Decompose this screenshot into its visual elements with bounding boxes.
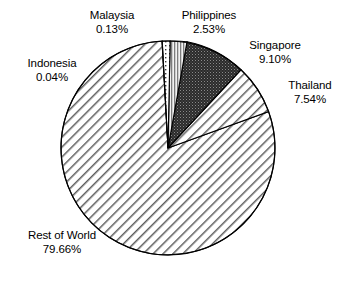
slice-label-singapore: Singapore 9.10% [232, 39, 318, 66]
slice-label-thailand: Thailand 7.54% [272, 79, 348, 106]
slice-label-rest-of-world: Rest of World 79.66% [6, 229, 118, 256]
slice-label-indonesia: Indonesia 0.04% [10, 57, 94, 84]
slice-label-thailand-value: 7.54% [272, 93, 348, 107]
slice-label-thailand-name: Thailand [272, 79, 348, 93]
slice-label-philippines: Philippines 2.53% [164, 9, 254, 36]
slice-label-philippines-name: Philippines [164, 9, 254, 23]
slice-label-singapore-value: 9.10% [232, 53, 318, 67]
pie-chart-figure: Malaysia 0.13% Philippines 2.53% Singapo… [0, 0, 352, 285]
slice-label-malaysia-value: 0.13% [74, 23, 150, 37]
slice-label-rest-of-world-name: Rest of World [6, 229, 118, 243]
slice-label-malaysia-name: Malaysia [74, 9, 150, 23]
slice-label-malaysia: Malaysia 0.13% [74, 9, 150, 36]
slice-label-indonesia-value: 0.04% [10, 71, 94, 85]
slice-label-indonesia-name: Indonesia [10, 57, 94, 71]
slice-label-philippines-value: 2.53% [164, 23, 254, 37]
slice-label-rest-of-world-value: 79.66% [6, 243, 118, 257]
slice-label-singapore-name: Singapore [232, 39, 318, 53]
